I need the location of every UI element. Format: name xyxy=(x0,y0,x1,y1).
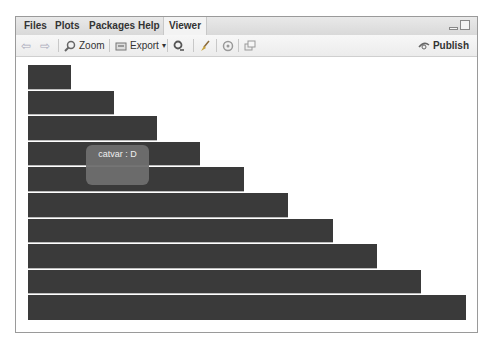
popout-button[interactable] xyxy=(244,37,256,54)
bar-h[interactable] xyxy=(28,244,377,269)
popout-icon xyxy=(244,40,256,52)
find-button[interactable] xyxy=(173,37,185,54)
viewer-pane: Files Plots Packages Help Viewer ⇦ ⇨ Zoo… xyxy=(15,16,478,333)
bar-f[interactable] xyxy=(28,193,288,218)
arrow-left-icon: ⇦ xyxy=(21,40,31,52)
export-button[interactable]: Export ▾ xyxy=(115,37,166,54)
tab-help[interactable]: Help xyxy=(133,17,165,35)
toolbar-separator xyxy=(58,39,59,52)
window-controls xyxy=(449,20,471,32)
tab-viewer[interactable]: Viewer xyxy=(163,17,207,36)
broom-icon xyxy=(199,40,211,52)
back-button[interactable]: ⇦ xyxy=(21,37,31,54)
bar-j[interactable] xyxy=(28,295,466,320)
publish-label: Publish xyxy=(433,37,469,54)
clear-button[interactable] xyxy=(199,37,211,54)
bar-i[interactable] xyxy=(28,270,421,295)
toolbar: ⇦ ⇨ Zoom Export ▾ xyxy=(16,35,477,57)
toolbar-separator xyxy=(167,39,168,52)
tab-packages[interactable]: Packages xyxy=(84,17,140,35)
maximize-button[interactable] xyxy=(460,20,470,30)
refresh-button[interactable] xyxy=(222,37,234,54)
bar-g[interactable] xyxy=(28,219,333,244)
chevron-down-icon: ▾ xyxy=(162,37,166,54)
chart-tooltip: catvar : D xyxy=(86,145,149,185)
bar-a[interactable] xyxy=(28,65,71,90)
toolbar-separator xyxy=(193,39,194,52)
publish-button[interactable]: Publish xyxy=(418,37,469,54)
zoom-button[interactable]: Zoom xyxy=(64,37,105,54)
export-label: Export xyxy=(130,37,159,54)
zoom-label: Zoom xyxy=(79,37,105,54)
forward-button[interactable]: ⇨ xyxy=(40,37,50,54)
toolbar-separator xyxy=(109,39,110,52)
bar-b[interactable] xyxy=(28,91,114,116)
magnifier-icon xyxy=(64,40,76,52)
bar-c[interactable] xyxy=(28,116,157,141)
toolbar-separator xyxy=(216,39,217,52)
search-icon xyxy=(173,40,185,52)
arrow-right-icon: ⇨ xyxy=(40,40,50,52)
minimize-button[interactable] xyxy=(449,27,458,30)
tooltip-text: catvar : D xyxy=(98,149,137,159)
toolbar-separator xyxy=(238,39,239,52)
tab-bar: Files Plots Packages Help Viewer xyxy=(16,17,477,36)
refresh-icon xyxy=(222,40,234,52)
export-icon xyxy=(115,40,127,52)
tab-files[interactable]: Files xyxy=(19,17,52,35)
tab-plots[interactable]: Plots xyxy=(50,17,84,35)
publish-icon xyxy=(418,40,430,52)
bar-chart: catvar : D xyxy=(16,57,477,332)
